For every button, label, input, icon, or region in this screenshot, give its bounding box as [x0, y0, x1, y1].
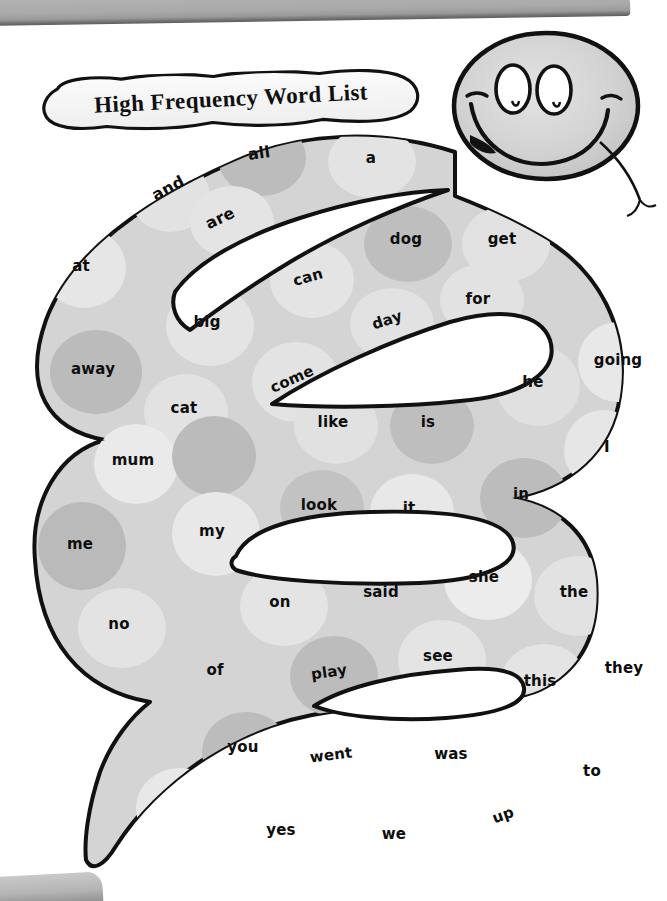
snake-illustration — [0, 0, 667, 901]
word-away: away — [71, 360, 115, 378]
word-for: for — [466, 290, 491, 308]
word-cat: cat — [171, 399, 198, 417]
word-we: we — [382, 825, 406, 843]
word-you: you — [227, 738, 258, 756]
word-is: is — [421, 413, 435, 431]
word-in: in — [513, 485, 529, 503]
word-my: my — [199, 522, 225, 540]
word-big: big — [193, 313, 220, 331]
word-me: me — [67, 535, 93, 553]
scanner-bottom-tab — [0, 871, 104, 901]
word-on: on — [269, 593, 290, 611]
word-dog: dog — [390, 230, 422, 248]
word-a: a — [366, 149, 376, 167]
word-no: no — [108, 615, 129, 633]
worksheet-page: High Frequency Word List aallandareatawa… — [0, 0, 667, 901]
word-going: going — [594, 351, 643, 369]
word-said: said — [363, 583, 399, 601]
word-like: like — [318, 413, 349, 431]
word-mum: mum — [112, 451, 155, 469]
word-yes: yes — [266, 821, 295, 839]
word-the: the — [560, 583, 589, 601]
word-it: it — [403, 499, 416, 517]
word-was: was — [434, 745, 468, 763]
word-see: see — [423, 647, 453, 665]
word-this: this — [524, 672, 557, 690]
snake-head — [454, 33, 656, 216]
word-at: at — [72, 257, 90, 275]
word-all: all — [247, 142, 272, 164]
word-look: look — [301, 496, 338, 514]
word-they: they — [605, 659, 644, 677]
word-i: I — [604, 438, 610, 456]
word-she: she — [469, 568, 499, 586]
word-get: get — [488, 230, 517, 248]
word-he: he — [522, 373, 543, 391]
word-to: to — [583, 762, 601, 780]
title-banner: High Frequency Word List — [35, 67, 426, 134]
word-of: of — [206, 661, 223, 679]
